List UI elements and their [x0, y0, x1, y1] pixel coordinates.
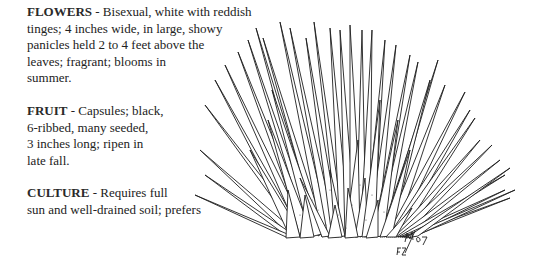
- flowers-text-line: - Bisexual, white with reddish: [92, 4, 252, 19]
- heading-fruit: FRUIT: [27, 103, 67, 118]
- fruit-text-line: - Capsules; black,: [67, 103, 163, 118]
- section-flowers: FLOWERS - Bisexual, white with reddish t…: [27, 4, 287, 87]
- fruit-text-line: late fall.: [27, 153, 287, 170]
- heading-culture: CULTURE: [27, 185, 89, 200]
- culture-text-line: - Requires full: [89, 185, 167, 200]
- flowers-text-line: tinges; 4 inches wide, in large, showy: [27, 21, 287, 38]
- section-culture: CULTURE - Requires full sun and well-dra…: [27, 185, 287, 218]
- document-page: FLOWERS - Bisexual, white with reddish t…: [0, 0, 535, 262]
- fruit-text-line: 6-ribbed, many seeded,: [27, 120, 287, 137]
- plant-description: FLOWERS - Bisexual, white with reddish t…: [27, 4, 287, 235]
- artist-signature: [393, 228, 433, 258]
- fruit-text-line: 3 inches long; ripen in: [27, 136, 287, 153]
- section-fruit: FRUIT - Capsules; black, 6-ribbed, many …: [27, 103, 287, 169]
- culture-text-line: sun and well-drained soil; prefers: [27, 202, 287, 219]
- flowers-text-line: panicles held 2 to 4 feet above the: [27, 37, 287, 54]
- flowers-text-line: leaves; fragrant; blooms in: [27, 54, 287, 71]
- heading-flowers: FLOWERS: [27, 4, 92, 19]
- flowers-text-line: summer.: [27, 70, 287, 87]
